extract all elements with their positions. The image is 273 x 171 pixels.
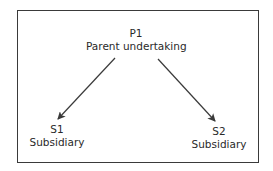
edges-layer bbox=[0, 0, 273, 171]
edge-p1-s2-arrow bbox=[158, 59, 215, 121]
edge-p1-s1-arrow bbox=[58, 58, 115, 119]
